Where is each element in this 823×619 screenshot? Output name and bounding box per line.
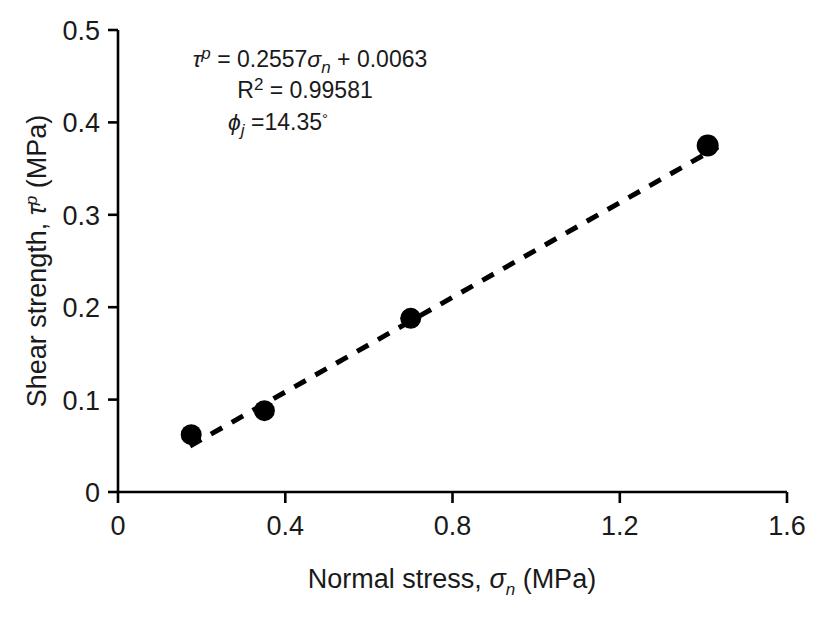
data-point-marker bbox=[400, 308, 421, 329]
y-tick-label-0.1: 0.1 bbox=[62, 386, 100, 416]
y-axis-title-suffix: (MPa) bbox=[22, 115, 52, 196]
y-tick-label-0.2: 0.2 bbox=[62, 293, 100, 323]
data-point-marker bbox=[254, 400, 275, 421]
chart-figure: 0.5 0.4 0.3 0.2 0.1 0 0 0.4 0.8 1.2 1.6 … bbox=[0, 0, 823, 619]
x-axis-title-prefix: Normal stress, bbox=[308, 564, 490, 594]
equation-part1: = 0.2557 bbox=[211, 46, 308, 72]
y-tick-label-0: 0 bbox=[85, 478, 100, 508]
x-tick-label-1.6: 1.6 bbox=[768, 511, 806, 541]
r-squared-superscript: 2 bbox=[254, 75, 263, 94]
friction-angle-value: =14.35 bbox=[245, 109, 322, 135]
r-squared-label: R bbox=[237, 77, 254, 103]
x-axis-title: Normal stress, σn (MPa) bbox=[308, 564, 596, 599]
x-axis-title-subscript: n bbox=[506, 580, 515, 599]
data-point-marker bbox=[697, 135, 719, 157]
x-tick-label-0: 0 bbox=[110, 511, 125, 541]
equation-tau-superscript: p bbox=[200, 44, 210, 63]
x-axis-title-symbol: σ bbox=[489, 564, 507, 594]
y-tick-label-0.4: 0.4 bbox=[62, 108, 100, 138]
friction-angle-degree: ° bbox=[322, 110, 328, 127]
data-point-marker bbox=[181, 424, 202, 445]
y-tick-label-0.5: 0.5 bbox=[62, 16, 100, 46]
y-axis-title-superscript: p bbox=[22, 196, 41, 206]
y-axis-title: Shear strength, τp (MPa) bbox=[22, 115, 52, 408]
r-squared-value: = 0.99581 bbox=[263, 77, 372, 103]
equation-sigma-subscript: n bbox=[321, 58, 330, 77]
friction-angle-phi: ϕ bbox=[228, 109, 241, 135]
x-tick-label-0.4: 0.4 bbox=[267, 511, 305, 541]
x-tick-label-0.8: 0.8 bbox=[434, 511, 472, 541]
x-tick-label-1.2: 1.2 bbox=[601, 511, 639, 541]
scatter-plot: 0.5 0.4 0.3 0.2 0.1 0 0 0.4 0.8 1.2 1.6 … bbox=[0, 0, 823, 619]
y-tick-label-0.3: 0.3 bbox=[62, 201, 100, 231]
x-axis-title-suffix: (MPa) bbox=[515, 564, 596, 594]
equation-part2: + 0.0063 bbox=[331, 46, 428, 72]
y-axis-title-prefix: Shear strength, bbox=[22, 215, 52, 407]
equation-sigma: σ bbox=[307, 46, 322, 72]
